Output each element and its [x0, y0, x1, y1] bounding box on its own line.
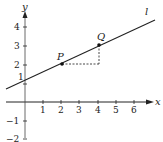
- x-axis-label: x: [155, 96, 161, 107]
- y-tick-label-neg1: −1: [6, 116, 19, 126]
- x-tick-label-2: 2: [58, 105, 64, 115]
- line-label-l: l: [145, 6, 148, 17]
- y-tick-label-3: 3: [14, 41, 20, 51]
- x-tick-label-3: 3: [76, 105, 82, 115]
- x-tick-label-6: 6: [131, 105, 137, 115]
- y-axis-label: y: [21, 1, 28, 12]
- x-tick-label-4: 4: [95, 105, 101, 115]
- y-axis-arrow-icon: [23, 11, 28, 18]
- x-axis-arrow-icon: [146, 100, 154, 105]
- x-tick-label-1: 1: [40, 105, 46, 115]
- plot-svg: x y 1 2 3 4 5 6 4 3 2 1 −1 −2 l P Q: [0, 0, 163, 142]
- line-l: [6, 20, 155, 89]
- point-p: [60, 62, 64, 66]
- x-tick-label-5: 5: [113, 105, 119, 115]
- point-q: [97, 43, 101, 47]
- y-tick-label-2: 2: [14, 60, 20, 70]
- y-tick-label-4: 4: [14, 22, 20, 32]
- y-tick-label-1: 1: [18, 72, 24, 82]
- y-tick-label-neg2: −2: [6, 134, 19, 142]
- coordinate-diagram: x y 1 2 3 4 5 6 4 3 2 1 −1 −2 l P Q: [0, 0, 163, 142]
- point-q-label: Q: [97, 31, 105, 42]
- point-p-label: P: [56, 51, 64, 62]
